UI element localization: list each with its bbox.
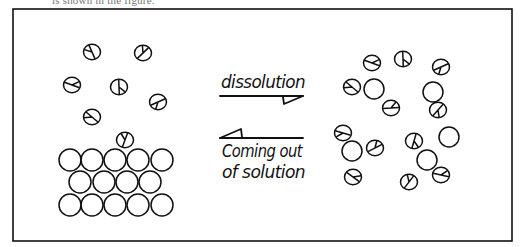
coming-out-label: Coming out	[222, 141, 304, 161]
reverse-arrow-icon	[220, 129, 303, 138]
solvent-molecule	[417, 150, 437, 170]
lattice-ion	[59, 149, 81, 171]
forward-arrow-icon	[220, 96, 303, 104]
solvent-molecule	[423, 82, 443, 102]
solute-particle	[364, 55, 381, 71]
solute-particle	[84, 44, 101, 60]
solute-particle	[150, 94, 167, 110]
left-dissolved-particles	[64, 44, 167, 148]
solute-particle	[84, 109, 101, 125]
solute-particle	[406, 133, 423, 149]
solute-particle	[111, 79, 128, 95]
lattice-ion	[93, 171, 115, 193]
solute-particle	[345, 169, 362, 185]
lattice-ion	[69, 171, 91, 193]
diagram-frame	[13, 9, 512, 241]
solute-particle	[433, 167, 450, 183]
solution-particles	[335, 51, 460, 190]
solute-particle	[117, 132, 134, 148]
lattice-ion	[104, 194, 126, 216]
solute-particle	[344, 79, 361, 95]
solute-particle	[401, 174, 418, 190]
lattice-ion	[81, 149, 103, 171]
solute-particle	[395, 51, 412, 67]
solute-particle	[433, 59, 450, 75]
lattice-ion	[127, 149, 149, 171]
lattice-ion	[116, 171, 138, 193]
solid-lattice	[59, 149, 173, 216]
of-solution-label: of solution	[222, 162, 305, 182]
solute-particle	[335, 125, 352, 141]
solute-particle	[135, 45, 152, 61]
lattice-ion	[81, 194, 103, 216]
solvent-molecule	[364, 79, 384, 99]
lattice-ion	[59, 194, 81, 216]
lattice-ion	[127, 194, 149, 216]
solute-particle	[430, 102, 447, 118]
lattice-ion	[151, 149, 173, 171]
dissolution-label: dissolution	[221, 72, 305, 92]
lattice-ion	[139, 171, 161, 193]
lattice-ion	[151, 194, 173, 216]
solvent-molecule	[342, 141, 362, 161]
lattice-ion	[104, 149, 126, 171]
solvent-molecule	[439, 127, 459, 147]
dissolution-diagram: dissolution Coming out of solution	[0, 0, 521, 247]
solute-particle	[64, 77, 81, 93]
solute-particle	[367, 140, 384, 156]
solute-particle	[383, 100, 400, 116]
